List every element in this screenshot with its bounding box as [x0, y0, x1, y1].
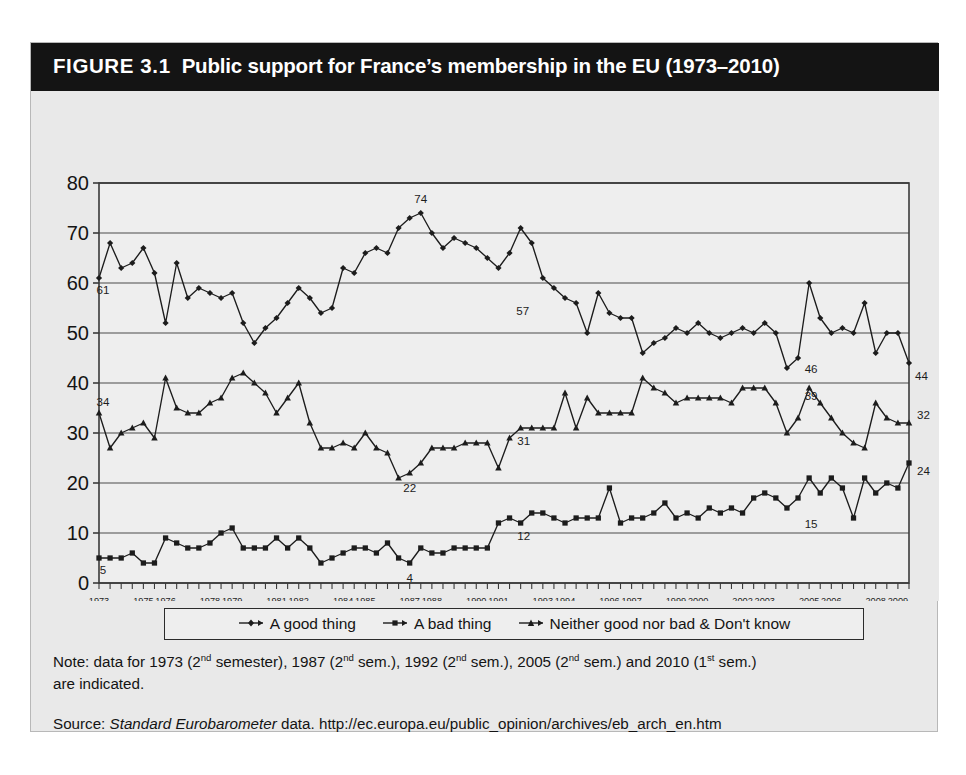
data-point-marker — [252, 545, 257, 550]
data-label: 22 — [403, 481, 416, 494]
data-point-marker — [318, 560, 323, 565]
data-point-marker — [707, 505, 712, 510]
x-axis-tick-label: 1978 — [200, 596, 220, 601]
chart-legend: A good thingA bad thingNeither good nor … — [164, 608, 864, 640]
note-sup-1: nd — [201, 652, 212, 663]
data-label: 39 — [805, 389, 818, 402]
data-point-marker — [829, 475, 834, 480]
note-sup-2: nd — [343, 652, 354, 663]
data-point-marker — [274, 535, 279, 540]
data-point-marker — [873, 490, 878, 495]
data-point-marker — [352, 545, 357, 550]
data-point-marker — [474, 545, 479, 550]
data-point-marker — [396, 555, 401, 560]
x-axis-tick-label: 1984 — [333, 596, 353, 601]
data-point-marker — [429, 550, 434, 555]
data-point-marker — [196, 545, 201, 550]
data-point-marker — [241, 545, 246, 550]
note-text-f: sem.) — [714, 653, 756, 670]
x-axis-tick-label: 1988 — [422, 596, 442, 601]
y-axis-tick-label: 10 — [67, 522, 89, 544]
x-axis-tick-label: 1973 — [89, 596, 109, 601]
data-point-marker — [884, 480, 889, 485]
data-point-marker — [485, 545, 490, 550]
data-label: 44 — [915, 369, 928, 382]
data-point-marker — [607, 485, 612, 490]
data-point-marker — [784, 505, 789, 510]
data-label: 24 — [917, 464, 930, 477]
figure-note: Note: data for 1973 (2nd semester), 1987… — [53, 651, 921, 695]
data-point-marker — [340, 550, 345, 555]
data-point-marker — [174, 540, 179, 545]
data-point-marker — [440, 550, 445, 555]
x-axis-tick-label: 1999 — [666, 596, 686, 601]
data-point-marker — [130, 550, 135, 555]
page-title: Public support for France’s membership i… — [182, 54, 780, 77]
data-point-marker — [718, 510, 723, 515]
data-point-marker — [385, 540, 390, 545]
data-point-marker — [618, 520, 623, 525]
data-point-marker — [773, 495, 778, 500]
figure-title-bar: FIGURE 3.1 Public support for France’s m… — [31, 43, 939, 91]
legend-item-3[interactable]: Neither good nor bad & Don't know — [518, 615, 791, 633]
note-text-d: sem.), 2005 (2 — [467, 653, 569, 670]
data-point-marker — [119, 555, 124, 560]
data-point-marker — [651, 510, 656, 515]
note-text-b: semester), 1987 (2 — [211, 653, 343, 670]
data-point-marker — [285, 545, 290, 550]
data-point-marker — [585, 515, 590, 520]
data-point-marker — [906, 460, 911, 465]
note-text-c: sem.), 1992 (2 — [354, 653, 456, 670]
data-point-marker — [296, 535, 301, 540]
data-point-marker — [418, 545, 423, 550]
data-point-marker — [152, 560, 157, 565]
source-prefix: Source: — [53, 715, 110, 732]
x-axis-tick-label: 2002 — [732, 596, 752, 601]
data-point-marker — [696, 515, 701, 520]
data-point-marker — [329, 555, 334, 560]
data-point-marker — [684, 510, 689, 515]
data-point-marker — [463, 545, 468, 550]
data-point-marker — [640, 515, 645, 520]
note-text-e: sem.) and 2010 (1 — [579, 653, 706, 670]
data-point-marker — [451, 545, 456, 550]
data-label: 34 — [97, 395, 110, 408]
legend-item-1[interactable]: A good thing — [238, 615, 356, 633]
data-point-marker — [363, 545, 368, 550]
x-axis-tick-label: 1982 — [288, 596, 308, 601]
triangle-line-marker-icon — [518, 615, 544, 633]
data-point-marker — [107, 555, 112, 560]
x-axis-tick-label: 2008 — [865, 596, 885, 601]
x-axis-tick-label: 1996 — [599, 596, 619, 601]
y-axis-tick-label: 60 — [67, 272, 89, 294]
square-line-marker-icon — [382, 615, 408, 633]
data-point-marker — [662, 500, 667, 505]
data-point-marker — [518, 520, 523, 525]
data-point-marker — [807, 475, 812, 480]
data-point-marker — [573, 515, 578, 520]
data-point-marker — [795, 495, 800, 500]
data-point-marker — [562, 520, 567, 525]
figure-title-text: FIGURE 3.1 Public support for France’s m… — [53, 54, 780, 78]
y-axis-tick-label: 70 — [67, 222, 89, 244]
data-label: 4 — [406, 571, 413, 584]
y-axis-tick-label: 30 — [67, 422, 89, 444]
data-label: 5 — [100, 563, 106, 576]
data-point-marker — [218, 530, 223, 535]
x-axis-tick-label: 1987 — [399, 596, 419, 601]
legend-item-2[interactable]: A bad thing — [382, 615, 492, 633]
data-point-marker — [862, 475, 867, 480]
legend-item-label: A bad thing — [414, 615, 492, 633]
x-axis-tick-label: 1981 — [266, 596, 286, 601]
data-point-marker — [185, 545, 190, 550]
data-point-marker — [163, 535, 168, 540]
note-sup-4: nd — [569, 652, 580, 663]
x-axis-tick-label: 2005 — [799, 596, 819, 601]
data-label: 12 — [517, 529, 530, 542]
x-axis-tick-label: 2009 — [888, 596, 908, 601]
note-line-2: are indicated. — [53, 675, 144, 692]
data-point-marker — [507, 515, 512, 520]
figure-source: Source: Standard Eurobarometer data. htt… — [53, 715, 921, 732]
data-point-marker — [762, 490, 767, 495]
data-label: 57 — [516, 304, 529, 317]
